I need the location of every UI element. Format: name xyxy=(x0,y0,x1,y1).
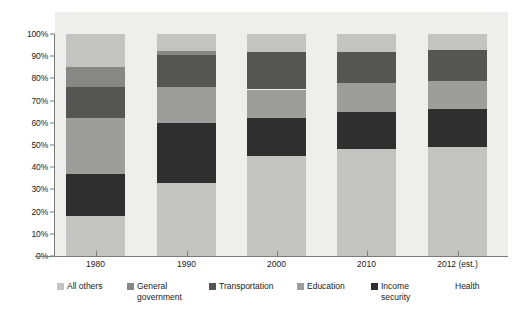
legend-item-label: Income security xyxy=(381,281,410,302)
bar-segment xyxy=(157,55,216,87)
legend-swatch-icon xyxy=(371,283,378,290)
bar-segment xyxy=(428,50,487,81)
bar-segment xyxy=(66,34,125,67)
legend-item[interactable]: General government xyxy=(127,281,182,302)
bar-segment xyxy=(157,123,216,183)
bar-segment xyxy=(428,34,487,50)
legend-item[interactable]: Education xyxy=(297,281,345,292)
legend-item-label: Transportation xyxy=(219,281,274,292)
x-axis-tick-mark xyxy=(458,251,459,256)
bar-segment xyxy=(157,51,216,55)
bar-2010 xyxy=(337,34,396,256)
bar-segment xyxy=(66,118,125,174)
x-axis-tick-label: 1990 xyxy=(177,259,196,269)
legend-swatch-icon xyxy=(127,283,134,290)
bar-1980 xyxy=(66,34,125,256)
x-axis-tick-label: 2012 (est.) xyxy=(437,259,478,269)
bar-segment xyxy=(337,34,396,52)
bar-segment xyxy=(66,67,125,87)
bar-segment xyxy=(157,34,216,51)
stacked-bar-chart: 0%10%20%30%40%50%60%70%80%90%100% 198019… xyxy=(0,0,515,327)
bar-1990 xyxy=(157,34,216,256)
legend-item[interactable]: Transportation xyxy=(209,281,274,292)
bar-segment xyxy=(428,147,487,256)
chart-legend: All othersGeneral governmentTransportati… xyxy=(0,281,515,317)
bar-segment xyxy=(247,90,306,119)
legend-item[interactable]: Health xyxy=(455,281,480,292)
bar-segment xyxy=(66,87,125,118)
bar-segment xyxy=(247,34,306,52)
bar-2012-est- xyxy=(428,34,487,256)
legend-swatch-icon xyxy=(57,283,64,290)
x-axis-tick-label: 2000 xyxy=(267,259,286,269)
bar-segment xyxy=(247,118,306,156)
legend-item-label: Health xyxy=(455,281,480,292)
legend-swatch-icon xyxy=(297,283,304,290)
bar-segment xyxy=(337,52,396,83)
bar-segment xyxy=(428,109,487,147)
bar-segment xyxy=(428,81,487,110)
legend-item[interactable]: Income security xyxy=(371,281,410,302)
bar-2000 xyxy=(247,34,306,256)
legend-item-label: All others xyxy=(67,281,102,292)
bar-segment xyxy=(247,52,306,90)
x-axis-tick-mark xyxy=(277,251,278,256)
bars-layer xyxy=(0,0,515,327)
x-axis-tick-label: 1980 xyxy=(86,259,105,269)
x-axis-line xyxy=(35,256,508,257)
x-axis-tick-mark xyxy=(187,251,188,256)
legend-item-label: Education xyxy=(307,281,345,292)
bar-segment xyxy=(157,87,216,123)
bar-segment xyxy=(337,149,396,256)
bar-segment xyxy=(337,83,396,112)
x-axis-tick-label: 2010 xyxy=(357,259,376,269)
bar-segment xyxy=(337,112,396,150)
legend-item-label: General government xyxy=(137,281,182,302)
legend-item[interactable]: All others xyxy=(57,281,102,292)
bar-segment xyxy=(66,216,125,256)
x-axis-tick-mark xyxy=(96,251,97,256)
bar-segment xyxy=(247,156,306,256)
bar-segment xyxy=(157,183,216,256)
bar-segment xyxy=(66,174,125,216)
x-axis-tick-mark xyxy=(367,251,368,256)
legend-swatch-icon xyxy=(209,283,216,290)
